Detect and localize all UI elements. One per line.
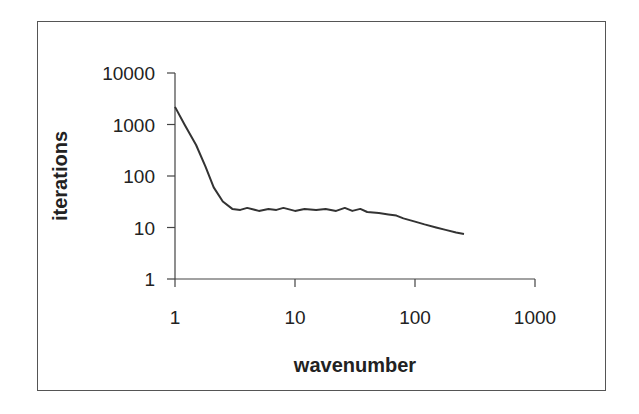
- y-tick-label: 1000: [113, 115, 155, 136]
- axes: [167, 73, 535, 287]
- x-tick-label: 1000: [514, 307, 556, 328]
- y-tick-label: 10000: [102, 63, 155, 84]
- x-tick-label: 1: [170, 307, 181, 328]
- x-tick-label: 100: [399, 307, 431, 328]
- y-tick-label: 100: [123, 166, 155, 187]
- y-tick-label: 1: [144, 269, 155, 290]
- x-tick-label: 10: [284, 307, 305, 328]
- y-tick-label: 10: [134, 218, 155, 239]
- y-axis-title: iterations: [49, 131, 71, 221]
- data-line: [175, 107, 464, 234]
- x-axis-title: wavenumber: [293, 354, 416, 376]
- tick-labels: 1101001000100001000100101: [102, 63, 556, 328]
- line-chart: 1101001000100001000100101 wavenumber ite…: [0, 0, 639, 414]
